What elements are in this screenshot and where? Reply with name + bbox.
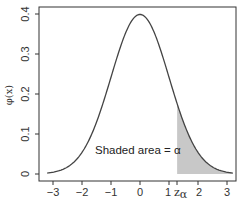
y-tick-label: 0.2 [19, 86, 31, 101]
x-tick-label: 1 [165, 186, 171, 198]
normal-density-chart: 0 0.1 0.2 0.3 0.4 φ(x) −3 −2 −1 0 1 2 3 … [0, 0, 239, 201]
y-axis-label: φ(x) [3, 85, 14, 106]
x-tick-label: −3 [47, 186, 60, 198]
y-tick-label: 0.4 [19, 6, 31, 21]
x-tick-label: 0 [137, 186, 143, 198]
shaded-area-annotation: Shaded area = α [95, 144, 181, 156]
y-tick-label: 0 [19, 171, 31, 177]
z-alpha-label: zα [174, 186, 188, 201]
x-tick-label: −2 [76, 186, 89, 198]
x-tick-label: 3 [224, 186, 230, 198]
y-axis [35, 14, 39, 174]
y-tick-label: 0.3 [19, 46, 31, 61]
shaded-tail-area [177, 104, 233, 174]
y-tick-labels: 0 0.1 0.2 0.3 0.4 [19, 6, 31, 177]
x-tick-label: 2 [196, 186, 202, 198]
x-tick-label: −1 [105, 186, 118, 198]
x-tick-labels: −3 −2 −1 0 1 2 3 zα [47, 186, 230, 201]
y-tick-label: 0.1 [19, 126, 31, 141]
x-axis [53, 181, 227, 185]
